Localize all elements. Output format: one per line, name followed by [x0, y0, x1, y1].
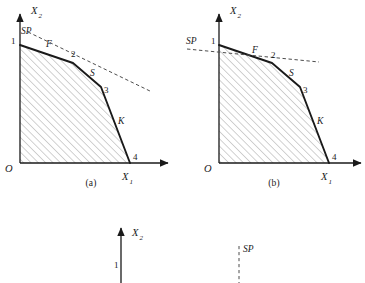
origin-label-b: O: [204, 163, 212, 174]
panel-c-canvas: X 2 SP 1: [95, 222, 295, 283]
panel-c: X 2 SP 1: [95, 222, 295, 283]
sp-label-a: SP: [21, 26, 32, 36]
segment-label-a-K: K: [117, 116, 125, 126]
segment-label-a-F: F: [45, 39, 52, 49]
y-axis-subscript-a: 2: [39, 12, 43, 20]
y-axis-subscript-c: 2: [140, 234, 144, 242]
vertex-label-a-4: 4: [133, 152, 138, 162]
caption-panel-a: (a): [0, 178, 182, 188]
vertex-label-b-3: 3: [303, 85, 308, 95]
vertex-label-b-1: 1: [211, 36, 216, 46]
vertex-label-b-4: 4: [332, 152, 337, 162]
feasible-region-a: [20, 45, 130, 163]
vertex-label-b-2: 2: [271, 50, 276, 60]
y-axis-label-c: X: [131, 227, 139, 238]
sp-label-b: SP: [186, 36, 197, 46]
vertex-label-a-2: 2: [71, 49, 76, 59]
panel-b-canvas: X 2 X 1 O SP 1 2 3 4 F S K: [183, 0, 365, 175]
caption-panel-b: (b): [183, 178, 365, 188]
y-axis-subscript-b: 2: [238, 12, 242, 20]
figure-root: X 2 X 1 O SP 1 2 3 4 F S K (a): [0, 0, 365, 283]
vertex-label-a-1: 1: [11, 36, 16, 46]
sp-label-c: SP: [243, 244, 254, 254]
feasible-region-b: [219, 45, 329, 163]
origin-label-a: O: [5, 163, 13, 174]
segment-label-a-S: S: [90, 68, 95, 78]
segment-label-b-K: K: [316, 116, 324, 126]
segment-label-b-S: S: [289, 68, 294, 78]
y-axis-label-a: X: [30, 5, 38, 16]
panel-a: X 2 X 1 O SP 1 2 3 4 F S K (a): [0, 0, 182, 175]
vertex-label-a-3: 3: [104, 85, 109, 95]
panel-b: X 2 X 1 O SP 1 2 3 4 F S K (b): [183, 0, 365, 175]
panel-a-canvas: X 2 X 1 O SP 1 2 3 4 F S K: [0, 0, 182, 175]
segment-label-b-F: F: [251, 45, 258, 55]
y-axis-label-b: X: [229, 5, 237, 16]
vertex-label-c-1: 1: [114, 260, 119, 270]
